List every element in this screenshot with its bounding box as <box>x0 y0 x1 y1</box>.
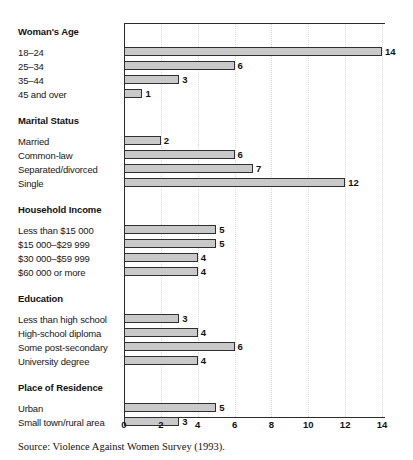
bar-value-label: 3 <box>182 313 187 324</box>
x-tick-label: 6 <box>232 419 237 430</box>
group-heading: Education <box>18 293 128 304</box>
category-label: Some post-secondary <box>18 342 126 353</box>
bar-value-label: 12 <box>348 177 359 188</box>
x-tick-label: 12 <box>340 419 351 430</box>
bar-value-label: 5 <box>219 238 224 249</box>
group-heading: Woman's Age <box>18 26 128 37</box>
chart-row: High-school diploma4 <box>0 326 413 340</box>
chart-row: 35–443 <box>0 73 413 87</box>
chart-row: 45 and over1 <box>0 87 413 101</box>
group-heading: Place of Residence <box>18 382 128 393</box>
category-label: Separated/divorced <box>18 164 126 175</box>
bar <box>124 178 345 187</box>
category-label: Less than $15 000 <box>18 225 126 236</box>
chart-group: Woman's Age18–241425–34635–44345 and ove… <box>0 26 413 101</box>
bar-value-label: 5 <box>219 224 224 235</box>
x-tick-label: 4 <box>195 419 200 430</box>
x-tick-label: 14 <box>377 419 388 430</box>
chart-row: $60 000 or more4 <box>0 265 413 279</box>
chart-row: Married2 <box>0 134 413 148</box>
bar <box>124 150 235 159</box>
category-label: University degree <box>18 356 126 367</box>
bar-value-label: 6 <box>238 149 243 160</box>
bar-value-label: 1 <box>145 88 150 99</box>
chart-row: Some post-secondary6 <box>0 340 413 354</box>
source-note: Source: Violence Against Women Survey (1… <box>18 441 225 452</box>
bar <box>124 75 179 84</box>
chart-row: $30 000–$59 9994 <box>0 251 413 265</box>
bar-value-label: 2 <box>164 135 169 146</box>
bar <box>124 61 235 70</box>
chart-row: Less than high school3 <box>0 312 413 326</box>
bar <box>124 225 216 234</box>
bar-value-label: 4 <box>201 327 206 338</box>
chart-row: Urban5 <box>0 401 413 415</box>
chart-row: Less than $15 0005 <box>0 223 413 237</box>
category-label: Less than high school <box>18 314 126 325</box>
chart-row: 25–346 <box>0 59 413 73</box>
x-axis-tick-labels: 02468101214 <box>0 419 413 435</box>
category-label: 18–24 <box>18 47 126 58</box>
category-label: $15 000–$29 999 <box>18 239 126 250</box>
category-label: $30 000–$59 999 <box>18 253 126 264</box>
chart-row: University degree4 <box>0 354 413 368</box>
bar <box>124 253 198 262</box>
bar <box>124 342 235 351</box>
bar-value-label: 5 <box>219 402 224 413</box>
chart-row: $15 000–$29 9995 <box>0 237 413 251</box>
category-label: Single <box>18 178 126 189</box>
bar <box>124 403 216 412</box>
bar-value-label: 4 <box>201 355 206 366</box>
category-label: 45 and over <box>18 89 126 100</box>
bar-value-label: 6 <box>238 60 243 71</box>
bar <box>124 267 198 276</box>
chart-group: Marital StatusMarried2Common-law6Separat… <box>0 115 413 190</box>
x-tick-label: 2 <box>158 419 163 430</box>
chart-group: Household IncomeLess than $15 0005$15 00… <box>0 204 413 279</box>
category-label: 25–34 <box>18 61 126 72</box>
category-label: Common-law <box>18 150 126 161</box>
x-tick-label: 10 <box>303 419 314 430</box>
chart-group: EducationLess than high school3High-scho… <box>0 293 413 368</box>
chart-row: Separated/divorced7 <box>0 162 413 176</box>
plot-top-rule <box>124 23 385 24</box>
bar <box>124 239 216 248</box>
bar-value-label: 7 <box>256 163 261 174</box>
bar-value-label: 14 <box>385 46 396 57</box>
bar-chart-figure: Woman's Age18–241425–34635–44345 and ove… <box>0 0 413 460</box>
category-label: High-school diploma <box>18 328 126 339</box>
bar-value-label: 3 <box>182 74 187 85</box>
group-heading: Marital Status <box>18 115 128 126</box>
bar <box>124 314 179 323</box>
group-heading: Household Income <box>18 204 128 215</box>
bar <box>124 136 161 145</box>
category-label: Urban <box>18 403 126 414</box>
category-label: 35–44 <box>18 75 126 86</box>
bar <box>124 89 142 98</box>
bar <box>124 164 253 173</box>
x-tick-label: 8 <box>269 419 274 430</box>
bar-value-label: 4 <box>201 252 206 263</box>
x-tick-label: 0 <box>121 419 126 430</box>
category-label: $60 000 or more <box>18 267 126 278</box>
chart-row: Single12 <box>0 176 413 190</box>
bar <box>124 328 198 337</box>
bar <box>124 356 198 365</box>
bar-value-label: 6 <box>238 341 243 352</box>
category-label: Married <box>18 136 126 147</box>
chart-row: Common-law6 <box>0 148 413 162</box>
chart-row: 18–2414 <box>0 45 413 59</box>
bar <box>124 47 382 56</box>
bar-value-label: 4 <box>201 266 206 277</box>
